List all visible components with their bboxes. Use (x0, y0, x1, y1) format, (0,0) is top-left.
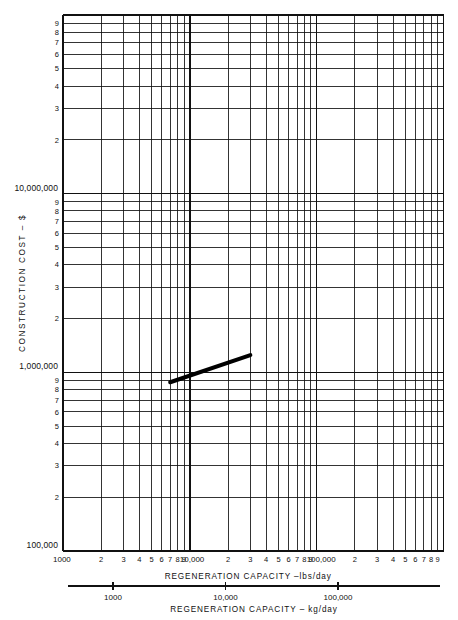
x-axis-minor-label: 5 (403, 555, 407, 564)
y-axis-minor-label: 5 (55, 422, 59, 431)
y-axis-minor-label: 2 (55, 314, 59, 323)
x-axis-minor-label: 6 (160, 555, 164, 564)
y-axis-minor-label: 6 (55, 50, 59, 59)
y-axis-minor-label: 7 (55, 38, 59, 47)
y-axis-minor-label: 2 (55, 493, 59, 502)
x-axis-minor-label: 3 (248, 555, 252, 564)
y-axis-minor-label: 5 (55, 64, 59, 73)
x-axis-minor-label: 8 (429, 555, 433, 564)
x-axis-minor-label: 7 (422, 555, 426, 564)
y-axis-minor-label: 8 (55, 207, 59, 216)
y-axis-minor-label: 7 (55, 396, 59, 405)
y-axis-minor-label: 3 (55, 104, 59, 113)
x-axis-minor-label: 3 (121, 555, 125, 564)
x-axis-minor-label: 3 (375, 555, 379, 564)
y-axis-minor-label: 4 (55, 439, 59, 448)
y-axis-minor-label: 3 (55, 461, 59, 470)
x-axis-major-label: 10,000 (180, 555, 205, 564)
x-axis-minor-label: 2 (226, 555, 230, 564)
y-axis-minor-label: 8 (55, 28, 59, 37)
x-axis-minor-label: 6 (286, 555, 290, 564)
y-axis-minor-label: 4 (55, 260, 59, 269)
y-axis-minor-label: 7 (55, 217, 59, 226)
x-axis-minor-label: 2 (99, 555, 103, 564)
y-axis-minor-label: 5 (55, 243, 59, 252)
x-axis-minor-label: 6 (413, 555, 417, 564)
y-axis-minor-label: 9 (55, 376, 59, 385)
data-series-line-0 (170, 355, 250, 382)
x-axis-minor-label: 4 (264, 555, 268, 564)
y-axis-minor-label: 8 (55, 385, 59, 394)
secondary-axis-tick-label: 100,000 (324, 593, 353, 602)
y-axis-minor-label: 6 (55, 408, 59, 417)
x-axis-major-label: 100,000 (307, 555, 336, 564)
y-axis-major-label: 1,000,000 (19, 361, 58, 371)
x-axis-title-lbs: REGENERATION CAPACITY –lbs/day (165, 572, 332, 581)
secondary-axis-tick-label: 10,000 (213, 593, 238, 602)
y-axis-minor-label: 4 (55, 82, 59, 91)
x-axis-minor-label: 5 (150, 555, 154, 564)
x-axis-minor-label: 5 (276, 555, 280, 564)
y-axis-minor-label: 9 (55, 19, 59, 28)
x-axis-minor-label: 9 (436, 555, 440, 564)
y-axis-minor-label: 2 (55, 136, 59, 145)
secondary-axis-tick-label: 1000 (104, 593, 122, 602)
x-axis-minor-label: 4 (137, 555, 141, 564)
y-axis-major-label: 10,000,000 (14, 183, 58, 193)
y-axis-major-label: 100,000 (27, 540, 59, 550)
chart-canvas: 100,000234567891,000,0002345678910,000,0… (0, 0, 458, 620)
y-axis-title: CONSTRUCTION COST – $ (18, 214, 27, 352)
x-axis-minor-label: 4 (391, 555, 395, 564)
x-axis-title-kg: REGENERATION CAPACITY – kg/day (170, 605, 338, 614)
y-axis-minor-label: 6 (55, 229, 59, 238)
y-axis-minor-label: 9 (55, 198, 59, 207)
x-axis-minor-label: 7 (295, 555, 299, 564)
x-axis-minor-label: 7 (168, 555, 172, 564)
y-axis-minor-label: 3 (55, 283, 59, 292)
log-log-chart-figure: 100,000234567891,000,0002345678910,000,0… (0, 0, 458, 620)
x-axis-minor-label: 2 (353, 555, 357, 564)
x-axis-major-label: 1000 (53, 555, 71, 564)
